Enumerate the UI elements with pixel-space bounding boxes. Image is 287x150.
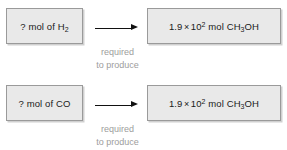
arrow-shaft	[95, 28, 133, 29]
diagram-row-co: ? mol of CO required to produce 1.9×102 …	[0, 83, 287, 150]
product-unit: mol	[208, 21, 224, 32]
product-base: 10	[191, 98, 202, 109]
multiplication-sign: ×	[182, 22, 190, 32]
arrow-head	[131, 101, 138, 107]
product-unit: mol	[208, 98, 224, 109]
reactant-species-subscript: 2	[65, 25, 69, 32]
caption-line-1: required	[80, 46, 155, 59]
product-formula-h2: 1.9×102 mol CH3OH	[169, 21, 259, 32]
reactant-formula-co: ? mol of CO	[19, 98, 71, 109]
reactant-box-h2: ? mol of H2	[6, 8, 83, 44]
product-exponent: 2	[202, 97, 206, 104]
diagram-row-h2: ? mol of H2 required to produce 1.9×102 …	[0, 6, 287, 76]
product-compound-part-2: OH	[245, 21, 259, 32]
multiplication-sign: ×	[182, 99, 190, 109]
arrow-caption-h2: required to produce	[80, 46, 155, 71]
right-arrow-icon-h2	[95, 24, 139, 32]
product-formula-co: 1.9×102 mol CH3OH	[169, 98, 259, 109]
arrow-shaft	[95, 105, 133, 106]
arrow-caption-co: required to produce	[80, 123, 155, 148]
product-box-h2: 1.9×102 mol CH3OH	[147, 8, 281, 44]
stoichiometry-diagram: ? mol of H2 required to produce 1.9×102 …	[0, 0, 287, 150]
product-compound-part-1: CH	[227, 98, 241, 109]
reactant-species: CO	[56, 98, 70, 109]
caption-line-2: to produce	[80, 59, 155, 72]
product-base: 10	[191, 21, 202, 32]
reactant-species: H	[58, 21, 65, 32]
caption-line-2: to produce	[80, 136, 155, 149]
caption-line-1: required	[80, 123, 155, 136]
reactant-box-co: ? mol of CO	[6, 85, 83, 121]
arrow-head	[131, 24, 138, 30]
reactant-prefix: ? mol of	[20, 21, 57, 32]
product-coefficient: 1.9	[169, 21, 183, 32]
reactant-prefix: ? mol of	[19, 98, 56, 109]
product-exponent: 2	[202, 20, 206, 27]
product-compound-part-2: OH	[245, 98, 259, 109]
right-arrow-icon-co	[95, 101, 139, 109]
product-coefficient: 1.9	[169, 98, 183, 109]
product-box-co: 1.9×102 mol CH3OH	[147, 85, 281, 121]
reactant-formula-h2: ? mol of H2	[20, 21, 68, 32]
product-compound-part-1: CH	[227, 21, 241, 32]
